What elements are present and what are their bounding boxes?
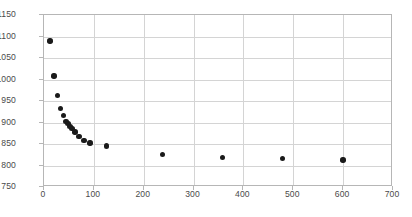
y-axis-tick-mark [39,14,43,15]
y-axis-tick-label: 950 [0,96,16,105]
y-axis-tick-label: 1050 [0,53,16,62]
y-axis-tick-label: 800 [0,160,16,169]
gridline-vertical [293,15,294,185]
x-axis-tick-label: 0 [23,190,63,199]
gridline-horizontal [44,37,391,38]
data-point [160,152,165,157]
data-point [104,143,109,148]
x-axis-tick-label: 200 [123,190,163,199]
data-point [51,73,56,78]
y-axis-tick-mark [39,165,43,166]
x-axis-tick-mark [93,186,94,190]
x-axis-tick-mark [43,186,44,190]
gridline-vertical [144,15,145,185]
y-axis-tick-mark [39,122,43,123]
scatter-chart: 7508008509009501000105011001150010020030… [0,0,412,217]
x-axis-tick-label: 400 [222,190,262,199]
gridline-horizontal [44,123,391,124]
y-axis-tick-label: 1000 [0,74,16,83]
data-point [220,155,225,160]
data-point [280,156,285,161]
data-point [340,157,345,162]
x-axis-tick-label: 100 [73,190,113,199]
x-axis-tick-mark [342,186,343,190]
y-axis-tick-mark [39,100,43,101]
data-point [47,38,52,43]
gridline-horizontal [44,166,391,167]
x-axis-tick-label: 600 [322,190,362,199]
y-axis-tick-label: 1100 [0,31,16,40]
x-axis-tick-label: 300 [173,190,213,199]
x-axis-tick-mark [143,186,144,190]
gridline-horizontal [44,58,391,59]
x-axis-tick-mark [392,186,393,190]
gridline-vertical [243,15,244,185]
gridline-vertical [194,15,195,185]
x-axis-tick-mark [242,186,243,190]
data-point [81,138,86,143]
data-point [58,106,63,111]
plot-area [43,14,392,186]
x-axis-tick-mark [193,186,194,190]
y-axis-tick-label: 900 [0,117,16,126]
gridline-vertical [94,15,95,185]
x-axis-tick-label: 700 [372,190,412,199]
y-axis-tick-mark [39,57,43,58]
y-axis-tick-mark [39,36,43,37]
y-axis-tick-label: 850 [0,139,16,148]
y-axis-tick-label: 1150 [0,10,16,19]
x-axis-tick-label: 500 [272,190,312,199]
y-axis-tick-mark [39,143,43,144]
gridline-horizontal [44,80,391,81]
y-axis-tick-mark [39,79,43,80]
gridline-horizontal [44,101,391,102]
data-point [61,113,66,118]
x-axis-tick-mark [292,186,293,190]
gridline-horizontal [44,144,391,145]
data-point [87,140,92,145]
data-point [55,93,60,98]
y-axis-tick-label: 750 [0,182,16,191]
